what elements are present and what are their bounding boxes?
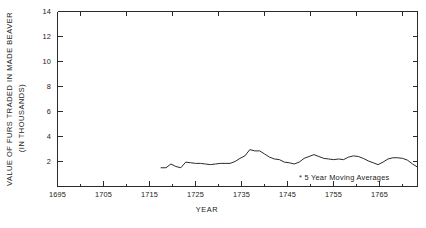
y-axis-title-line1: VALUE OF FURS TRADED IN MADE BEAVER xyxy=(5,12,14,186)
y-axis-title-line2: (IN THOUSANDS) xyxy=(17,84,26,152)
x-tick-label-1745: 1745 xyxy=(279,190,296,199)
x-tick-marks-top xyxy=(81,12,403,16)
y-tick-label-6: 6 xyxy=(47,107,51,116)
y-tick-label-8: 8 xyxy=(47,82,51,91)
chart-canvas: 14 12 10 8 6 4 2 xyxy=(0,0,426,228)
x-axis-title: YEAR xyxy=(196,205,218,214)
y-tick-label-10: 10 xyxy=(42,57,51,66)
x-tick-label-1695: 1695 xyxy=(49,190,66,199)
x-tick-label-1735: 1735 xyxy=(233,190,250,199)
x-tick-label-1705: 1705 xyxy=(95,190,112,199)
x-tick-label-1765: 1765 xyxy=(371,190,388,199)
y-tick-label-2: 2 xyxy=(47,157,51,166)
y-tick-label-4: 4 xyxy=(47,132,51,141)
x-tick-label-1755: 1755 xyxy=(325,190,342,199)
y-tick-marks xyxy=(58,12,63,162)
fur-trade-line-chart: 14 12 10 8 6 4 2 xyxy=(0,0,426,228)
x-tick-label-1725: 1725 xyxy=(187,190,204,199)
fur-value-series-line xyxy=(161,150,417,168)
x-tick-labels: 1695 1705 1715 1725 1735 1745 1755 1765 xyxy=(49,190,388,199)
moving-average-note: * 5 Year Moving Averages xyxy=(299,173,390,182)
x-tick-label-1715: 1715 xyxy=(141,190,158,199)
y-tick-marks-right xyxy=(413,37,418,162)
y-tick-labels: 14 12 10 8 6 4 2 xyxy=(42,7,51,166)
y-tick-label-12: 12 xyxy=(42,32,51,41)
y-tick-label-14: 14 xyxy=(42,7,51,16)
